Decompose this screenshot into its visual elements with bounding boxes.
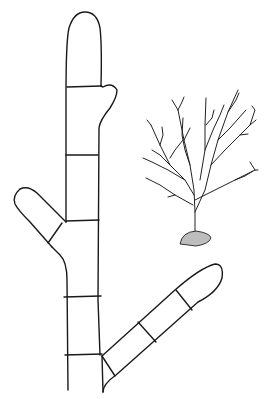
inset-plant: [143, 90, 258, 246]
filament-illustration: [0, 0, 267, 399]
main-filament: [52, 12, 117, 392]
right-branch: [102, 264, 222, 392]
holdfast: [180, 231, 211, 246]
left-branch: [14, 188, 66, 247]
